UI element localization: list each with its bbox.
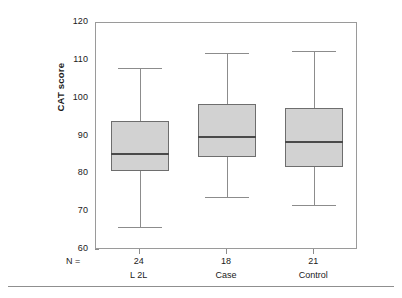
x-tick-mark-1 — [226, 249, 227, 254]
n-equals-label: N = — [66, 256, 80, 266]
whisker-upper-stem — [314, 51, 315, 108]
median-line — [111, 153, 169, 155]
median-line — [198, 136, 256, 138]
y-tick-label-80: 80 — [62, 168, 88, 177]
whisker-lower-stem — [227, 157, 228, 197]
y-tick-label-60: 60 — [62, 244, 88, 253]
median-line — [285, 141, 343, 143]
whisker-lower-cap — [205, 197, 249, 198]
whisker-lower-stem — [140, 171, 141, 228]
whisker-upper-cap — [118, 68, 162, 69]
n-count-case: 18 — [196, 256, 256, 266]
x-category-label-l-2l: L 2L — [104, 270, 174, 280]
whisker-upper-cap — [292, 51, 336, 52]
footer-divider — [8, 286, 394, 287]
whisker-upper-stem — [140, 68, 141, 121]
x-tick-mark-2 — [313, 249, 314, 254]
whisker-lower-cap — [118, 227, 162, 228]
iqr-box — [198, 104, 256, 157]
y-tick-label-90: 90 — [62, 131, 88, 140]
boxplot-figure: CAT score 12011010090807060 N = 24L 2L18… — [0, 0, 402, 298]
iqr-box — [285, 108, 343, 167]
n-count-control: 21 — [283, 256, 343, 266]
y-tick-label-120: 120 — [62, 17, 88, 26]
y-tick-label-70: 70 — [62, 206, 88, 215]
x-category-label-case: Case — [191, 270, 261, 280]
plot-area — [95, 22, 357, 249]
x-tick-mark-0 — [139, 249, 140, 254]
y-tick-mark-60 — [95, 249, 99, 250]
iqr-box — [111, 121, 169, 170]
whisker-upper-stem — [227, 53, 228, 104]
n-count-l-2l: 24 — [109, 256, 169, 266]
whisker-upper-cap — [205, 53, 249, 54]
x-category-label-control: Control — [278, 270, 348, 280]
whisker-lower-stem — [314, 167, 315, 205]
y-tick-label-100: 100 — [62, 93, 88, 102]
whisker-lower-cap — [292, 205, 336, 206]
y-tick-label-110: 110 — [62, 55, 88, 64]
